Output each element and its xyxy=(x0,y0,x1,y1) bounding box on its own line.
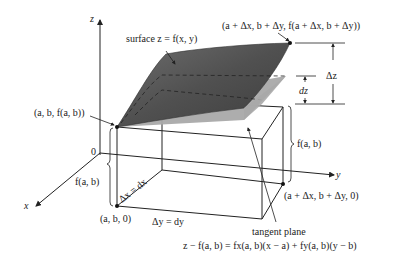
base-point-leader xyxy=(90,116,114,125)
delta-x-label: Δx = dx xyxy=(116,176,148,204)
point-a-b-0 xyxy=(115,204,119,208)
x-axis-label: x xyxy=(23,200,29,211)
fab-left-label: f(a, b) xyxy=(75,176,99,188)
z-axis-label: z xyxy=(89,13,94,24)
fab-left-brace xyxy=(107,128,113,206)
point-a-b-fab xyxy=(115,125,119,129)
surface-label: surface z = f(x, y) xyxy=(126,33,197,45)
delta-y-label: Δy = dy xyxy=(152,216,184,227)
base-surface-point-label: (a, b, f(a, b)) xyxy=(34,107,85,119)
y-axis-label: y xyxy=(335,169,341,180)
far-floor-point-label: (a + Δx, b + Δy, 0) xyxy=(284,190,359,202)
differential-diagram: z x y 0 surface z = f(x, y) (a + Δx, b +… xyxy=(0,0,401,266)
tangent-plane-equation: z − f(a, b) = fx(a, b)(x − a) + fy(a, b)… xyxy=(183,240,357,252)
dz-label: dz xyxy=(299,85,308,96)
tangent-plane-label: tangent plane xyxy=(252,226,306,237)
fab-right-label: f(a, b) xyxy=(297,138,321,150)
origin-label: 0 xyxy=(91,146,96,157)
point-far-floor xyxy=(281,182,285,186)
base-floor-point-label: (a, b, 0) xyxy=(100,213,131,225)
delta-z-label: Δz xyxy=(326,70,337,81)
y-axis xyxy=(100,153,334,175)
top-point-leader xyxy=(278,33,289,41)
top-point-label: (a + Δx, b + Δy, f(a + Δx, b + Δy)) xyxy=(222,20,360,32)
point-top-surface xyxy=(288,41,292,45)
